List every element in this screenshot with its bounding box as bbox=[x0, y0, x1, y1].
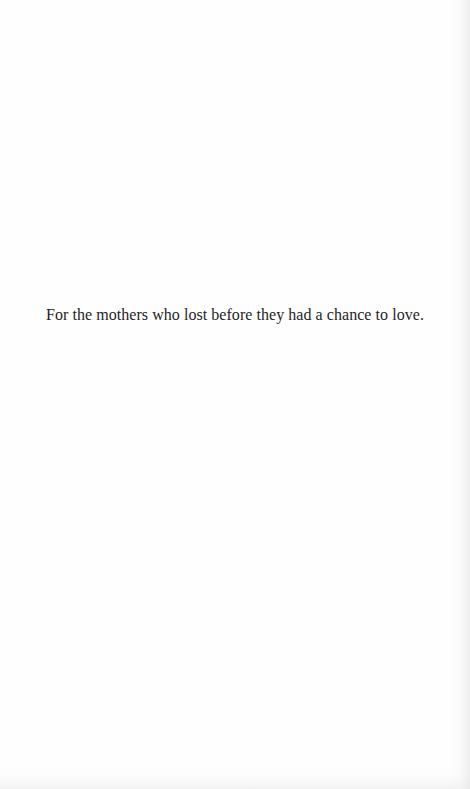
dedication-text: For the mothers who lost before they had… bbox=[0, 305, 470, 325]
book-page: For the mothers who lost before they had… bbox=[0, 0, 470, 789]
